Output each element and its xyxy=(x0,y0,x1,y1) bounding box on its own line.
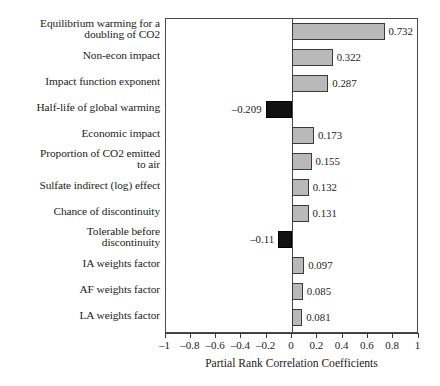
bar-value-label: 0.322 xyxy=(337,49,361,66)
x-axis-title: Partial Rank Correlation Coefficients xyxy=(165,357,418,370)
bar-value-label: 0.081 xyxy=(306,309,330,326)
category-label: IA weights factor xyxy=(0,258,160,270)
category-label-line: Non-econ impact xyxy=(0,50,160,62)
category-label: Non-econ impact xyxy=(0,50,160,62)
bar xyxy=(292,179,309,196)
bar-value-label: 0.097 xyxy=(308,257,332,274)
category-label-line: IA weights factor xyxy=(0,258,160,270)
x-axis-tick xyxy=(291,333,292,338)
category-label-line: discontinuity xyxy=(0,237,160,249)
bar xyxy=(292,205,309,222)
bar xyxy=(292,153,312,170)
bar xyxy=(266,101,292,118)
category-label-line: doubling of CO2 xyxy=(0,29,160,41)
bar xyxy=(292,49,333,66)
category-label-line: Impact function exponent xyxy=(0,76,160,88)
category-label: Impact function exponent xyxy=(0,76,160,88)
category-label-line: LA weights factor xyxy=(0,310,160,322)
category-label: Tolerable beforediscontinuity xyxy=(0,226,160,250)
partial-rank-correlation-chart: Equilibrium warming for adoubling of CO2… xyxy=(0,0,440,386)
bar xyxy=(278,231,292,248)
bar-value-label: –0.209 xyxy=(202,101,262,118)
x-axis-tick-label: 1 xyxy=(398,339,438,352)
bar xyxy=(292,309,302,326)
x-axis-tick xyxy=(190,333,191,338)
x-axis-tick xyxy=(418,333,419,338)
category-label-line: Economic impact xyxy=(0,128,160,140)
category-label-line: Proportion of CO2 emitted xyxy=(0,148,160,160)
x-axis-tick xyxy=(392,333,393,338)
category-label: Half-life of global warming xyxy=(0,102,160,114)
category-label: Proportion of CO2 emittedto air xyxy=(0,148,160,172)
bar xyxy=(292,75,328,92)
category-label: LA weights factor xyxy=(0,310,160,322)
x-axis-tick xyxy=(342,333,343,338)
category-label: Sulfate indirect (log) effect xyxy=(0,180,160,192)
x-axis-tick xyxy=(165,333,166,338)
category-label: AF weights factor xyxy=(0,284,160,296)
x-axis-tick xyxy=(240,333,241,338)
plot-frame: 0.7320.3220.287–0.2090.1730.1550.1320.13… xyxy=(165,18,418,333)
bar xyxy=(292,283,303,300)
bar-value-label: 0.155 xyxy=(316,153,340,170)
bar-value-label: 0.085 xyxy=(307,283,331,300)
category-label-line: Chance of discontinuity xyxy=(0,206,160,218)
bar xyxy=(292,127,314,144)
category-label: Equilibrium warming for adoubling of CO2 xyxy=(0,18,160,42)
category-label-line: Sulfate indirect (log) effect xyxy=(0,180,160,192)
category-label-line: to air xyxy=(0,159,160,171)
x-axis-tick xyxy=(367,333,368,338)
bar-value-label: 0.287 xyxy=(332,75,356,92)
x-axis-tick xyxy=(215,333,216,338)
category-label-line: AF weights factor xyxy=(0,284,160,296)
category-label: Chance of discontinuity xyxy=(0,206,160,218)
bar-value-label: –0.11 xyxy=(214,231,274,248)
bar xyxy=(292,23,385,40)
x-axis-tick xyxy=(266,333,267,338)
bar xyxy=(292,257,304,274)
bar-value-label: 0.732 xyxy=(389,23,413,40)
bar-value-label: 0.173 xyxy=(318,127,342,144)
x-axis-tick xyxy=(316,333,317,338)
category-label-line: Half-life of global warming xyxy=(0,102,160,114)
bar-value-label: 0.132 xyxy=(313,179,337,196)
category-label-column: Equilibrium warming for adoubling of CO2… xyxy=(0,18,160,333)
category-label: Economic impact xyxy=(0,128,160,140)
bar-value-label: 0.131 xyxy=(313,205,337,222)
